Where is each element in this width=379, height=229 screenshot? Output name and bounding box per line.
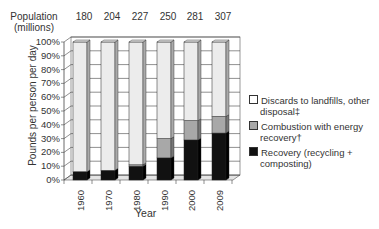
legend-discards-text: Discards to landfills, other	[261, 95, 370, 106]
population-value: 180	[69, 11, 99, 22]
y-tick-label: 10%	[26, 160, 60, 171]
y-tick-label: 100%	[26, 36, 60, 47]
x-tick-label: 1970	[103, 186, 114, 216]
y-tick-label: 20%	[26, 146, 60, 157]
swatch-recovery	[249, 147, 258, 156]
population-value: 227	[125, 11, 155, 22]
swatch-discards	[249, 95, 258, 104]
legend-combustion-text: Combustion with energy	[261, 121, 363, 132]
legend-recovery-text: Recovery (recycling +	[261, 147, 353, 158]
population-value: 307	[208, 11, 238, 22]
population-value: 250	[153, 11, 183, 22]
y-tick-label: 40%	[26, 119, 60, 130]
legend-item-combustion: Combustion with energy recovery†	[249, 121, 370, 143]
swatch-combustion	[249, 121, 258, 130]
y-tick-label: 0%	[26, 174, 60, 185]
x-tick-label: 2000	[186, 186, 197, 216]
legend: Discards to landfills, other disposal‡ C…	[249, 95, 370, 169]
legend-discards-text2: disposal‡	[249, 106, 300, 117]
y-tick-label: 50%	[26, 105, 60, 116]
legend-recovery-text2: composting)	[249, 158, 312, 169]
x-tick-label: 2009	[214, 186, 225, 216]
population-value: 204	[97, 11, 127, 22]
legend-item-discards: Discards to landfills, other disposal‡	[249, 95, 370, 117]
y-tick-label: 90%	[26, 50, 60, 61]
x-tick-label: 1990	[159, 186, 170, 216]
x-tick-label: 1980	[131, 186, 142, 216]
legend-item-recovery: Recovery (recycling + composting)	[249, 147, 370, 169]
y-tick-label: 30%	[26, 133, 60, 144]
y-tick-label: 80%	[26, 64, 60, 75]
y-tick-label: 60%	[26, 91, 60, 102]
y-tick-label: 70%	[26, 77, 60, 88]
legend-combustion-text2: recovery†	[249, 132, 302, 143]
population-value: 281	[180, 11, 210, 22]
x-tick-label: 1960	[75, 186, 86, 216]
